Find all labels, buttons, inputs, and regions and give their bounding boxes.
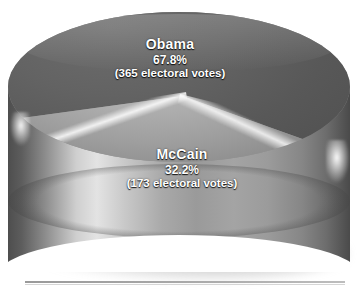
rim-specular-highlight-right	[326, 140, 350, 184]
slice-label-obama-detail: (365 electoral votes)	[50, 67, 290, 81]
slice-label-obama-name: Obama	[50, 36, 290, 53]
slice-label-obama: Obama 67.8% (365 electoral votes)	[50, 36, 290, 80]
slice-label-mccain-detail: (173 electoral votes)	[62, 177, 302, 191]
slice-label-mccain: McCain 32.2% (173 electoral votes)	[62, 146, 302, 190]
baseline-rule	[25, 281, 345, 283]
chart-canvas: Obama 67.8% (365 electoral votes) McCain…	[0, 0, 361, 296]
baseline-rule-shadow	[25, 284, 345, 285]
slice-label-obama-percent: 67.8%	[50, 53, 290, 67]
rim-specular-highlight-left	[10, 112, 30, 146]
slice-label-mccain-percent: 32.2%	[62, 163, 302, 177]
slice-label-mccain-name: McCain	[62, 146, 302, 163]
pie-top-surface	[8, 12, 350, 162]
